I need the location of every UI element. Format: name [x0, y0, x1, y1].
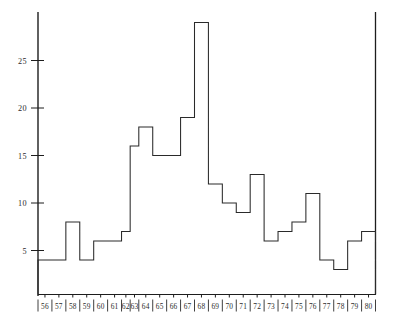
x-tick-label-70: 70	[225, 302, 233, 311]
x-tick-label-73: 73	[267, 302, 275, 311]
x-tick-label-66: 66	[170, 302, 178, 311]
y-tick-label-10: 10	[18, 199, 27, 208]
x-tick-label-72: 72	[253, 302, 261, 311]
x-tick-label-56: 56	[41, 302, 49, 311]
x-tick-label-74: 74	[281, 302, 289, 311]
x-tick-label-60: 60	[97, 302, 105, 311]
x-tick-label-62: 62	[122, 302, 130, 311]
y-tick-label-20: 20	[18, 104, 27, 113]
x-tick-label-59: 59	[83, 302, 91, 311]
histogram-step-outline	[38, 23, 376, 295]
x-tick-label-71: 71	[239, 302, 247, 311]
x-tick-label-63: 63	[130, 302, 138, 311]
x-tick-label-78: 78	[337, 302, 345, 311]
x-tick-label-65: 65	[156, 302, 164, 311]
y-tick-labels: 5 10 15 20 25	[18, 57, 27, 256]
x-tick-label-64: 64	[142, 302, 150, 311]
x-tick-label-75: 75	[295, 302, 303, 311]
x-tick-label-58: 58	[69, 302, 77, 311]
x-tick-label-61: 61	[111, 302, 119, 311]
y-tick-label-15: 15	[18, 152, 27, 161]
x-tick-label-69: 69	[211, 302, 219, 311]
x-tick-label-68: 68	[198, 302, 206, 311]
x-tick-label-80: 80	[365, 302, 373, 311]
histogram-plot: 5 10 15 20 25 56575859606162636465666768…	[0, 0, 394, 326]
x-tick-label-76: 76	[309, 302, 317, 311]
x-tick-label-79: 79	[351, 302, 359, 311]
x-tick-label-77: 77	[323, 302, 331, 311]
x-tick-label-67: 67	[184, 302, 192, 311]
y-tick-label-5: 5	[23, 247, 28, 256]
histogram-figure: 5 10 15 20 25 56575859606162636465666768…	[0, 0, 394, 326]
x-tick-label-57: 57	[55, 302, 63, 311]
y-tick-label-25: 25	[18, 57, 27, 66]
x-axis-labels: 5657585960616263646566676869707172737475…	[38, 295, 376, 312]
